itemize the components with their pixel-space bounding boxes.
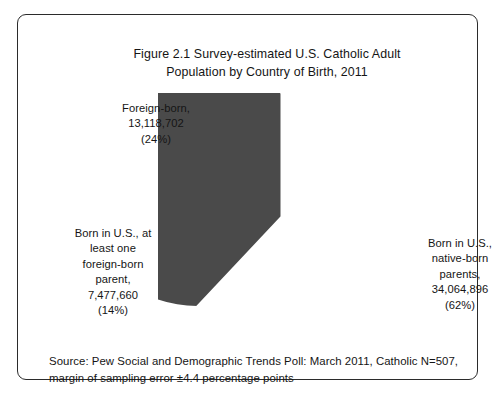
- slice-label-foreign-born-line-1: Foreign-born,: [80, 101, 232, 116]
- slice-label-one-foreign-parent-line-2: least one: [40, 241, 186, 256]
- slice-label-native-born-line-1: Born in U.S.,: [410, 236, 498, 251]
- page-title: Figure 2.1 Survey-estimated U.S. Catholi…: [76, 45, 458, 81]
- slice-label-one-foreign-parent-line-1: Born in U.S., at: [40, 226, 186, 241]
- slice-label-one-foreign-parent-line-3: foreign-born: [40, 257, 186, 272]
- slice-label-one-foreign-parent-line-6: (14%): [40, 303, 186, 318]
- slice-label-native-born-line-4: 34,064,896: [410, 282, 498, 297]
- source-note-line-2: margin of sampling error ±4.4 percentage…: [49, 370, 489, 387]
- slice-label-native-born-line-5: (62%): [410, 298, 498, 313]
- source-note: Source: Pew Social and Demographic Trend…: [49, 353, 489, 386]
- slice-label-native-born-line-2: native-born: [410, 251, 498, 266]
- title-line-2: Population by Country of Birth, 2011: [76, 63, 458, 81]
- source-note-line-1: Source: Pew Social and Demographic Trend…: [49, 353, 489, 370]
- figure-frame: Figure 2.1 Survey-estimated U.S. Catholi…: [17, 14, 478, 380]
- slice-label-native-born-line-3: parents,: [410, 267, 498, 282]
- slice-label-one-foreign-parent-line-4: parent,: [40, 272, 186, 287]
- title-line-1: Figure 2.1 Survey-estimated U.S. Catholi…: [76, 45, 458, 63]
- slice-label-one-foreign-parent: Born in U.S., at least one foreign-born …: [40, 226, 186, 318]
- slice-label-foreign-born-line-3: (24%): [80, 132, 232, 147]
- slice-label-foreign-born-line-2: 13,118,702: [80, 116, 232, 131]
- slice-label-one-foreign-parent-line-5: 7,477,660: [40, 288, 186, 303]
- slice-label-foreign-born: Foreign-born, 13,118,702 (24%): [80, 101, 232, 147]
- slice-label-native-born: Born in U.S., native-born parents, 34,06…: [410, 236, 498, 313]
